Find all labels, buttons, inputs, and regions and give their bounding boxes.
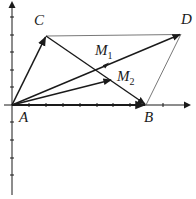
label-m1: M1 [95, 43, 113, 61]
label-m1-sub: 1 [108, 50, 113, 61]
label-b: B [144, 110, 153, 125]
label-d: D [181, 12, 192, 27]
label-c: C [34, 13, 44, 28]
label-a: A [19, 110, 28, 125]
y-axis [9, 1, 16, 195]
label-m2-main: M [117, 68, 130, 84]
x-axis-arrow-icon [184, 102, 191, 109]
label-m1-main: M [95, 42, 108, 58]
vector-ac [12, 37, 46, 105]
y-axis-arrow-icon [9, 1, 16, 8]
edge-bd [146, 34, 181, 105]
edge-cd [46, 35, 179, 37]
label-m2: M2 [117, 69, 135, 87]
parallelogram-vector-diagram [0, 0, 196, 199]
label-m2-sub: 2 [130, 76, 135, 87]
